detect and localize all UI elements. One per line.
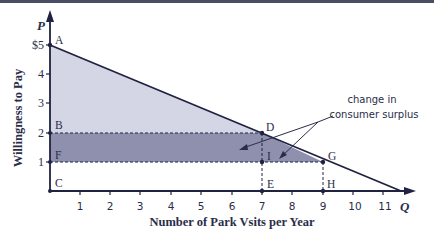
label-a: A <box>55 34 64 46</box>
y-axis-symbol: P <box>37 18 46 33</box>
x-axis-title: Number of Park Vsits per Year <box>149 215 315 229</box>
y-axis-title: Willingness to Pay <box>11 68 25 167</box>
x-tick-label: 8 <box>289 200 296 212</box>
point-i <box>260 160 264 164</box>
y-axis-arrow-icon <box>46 10 54 22</box>
x-axis-symbol: Q <box>400 199 410 214</box>
point-c <box>48 189 52 193</box>
point-g <box>321 160 325 164</box>
label-h: H <box>327 178 335 190</box>
annotation-line-2: consumer surplus <box>329 109 418 120</box>
x-tick-label: 9 <box>320 200 327 212</box>
point-d <box>260 131 264 135</box>
annotation-line-1: change in <box>347 94 396 105</box>
point-e <box>260 189 264 193</box>
consumer-surplus-chart: $5 4 3 2 1 1 2 3 4 5 6 7 8 9 10 11 P Q W… <box>0 0 434 240</box>
x-tick-label: 6 <box>229 200 236 212</box>
y-tick-label: 4 <box>38 67 44 81</box>
x-tick-label: 5 <box>198 200 205 212</box>
y-tick-label: 3 <box>38 96 44 110</box>
point-h <box>321 189 325 193</box>
label-c: C <box>55 177 63 189</box>
label-f: F <box>55 149 61 161</box>
label-e: E <box>267 178 274 190</box>
x-tick-label: 10 <box>348 200 361 212</box>
y-tick-label: 1 <box>38 155 44 169</box>
point-f <box>48 160 52 164</box>
x-tick-label: 2 <box>107 200 114 212</box>
x-tick-label: 3 <box>137 200 144 212</box>
x-tick-label: 11 <box>378 200 391 212</box>
point-b <box>48 131 52 135</box>
point-a <box>48 43 52 47</box>
x-tick-label: 7 <box>259 200 266 212</box>
label-b: B <box>55 119 63 131</box>
y-tick-label: 2 <box>38 126 44 140</box>
x-axis-arrow-icon <box>404 187 416 195</box>
label-d: D <box>266 121 274 133</box>
change-in-surplus-region <box>50 133 323 162</box>
label-g: G <box>328 150 336 162</box>
x-tick-label: 1 <box>77 200 84 212</box>
y-tick-label: $5 <box>32 38 44 52</box>
label-i: I <box>267 150 271 162</box>
x-tick-label: 4 <box>168 200 175 212</box>
